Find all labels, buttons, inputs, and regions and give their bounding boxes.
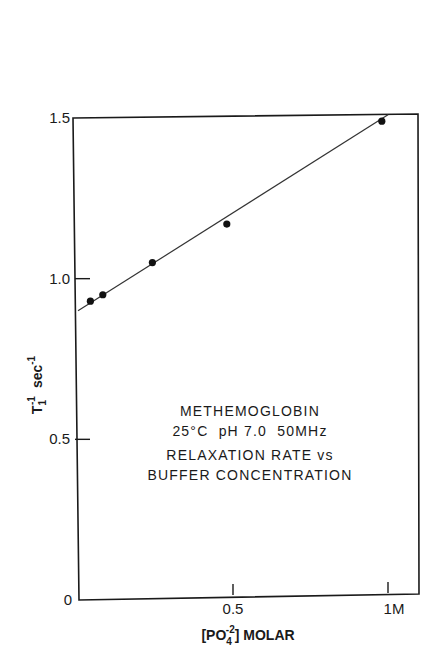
annotation-line: 25°C pH 7.0 50MHz [172,423,327,439]
y-axis-label: T1-1sec-1 [26,355,48,414]
annotation-line: METHEMOGLOBIN [180,403,320,419]
y-tick-label: 0.5 [49,430,70,447]
annotation: METHEMOGLOBIN 25°C pH 7.0 50MHz RELAXATI… [148,403,353,483]
data-point [87,298,94,305]
data-point [149,259,156,266]
chart: 00.51.01.50.51M [PO4-2] MOLAR T1-1sec-1 … [0,0,440,665]
y-tick-label: 1.5 [49,109,70,126]
data-point [99,291,106,298]
plot-border [73,114,419,600]
x-tick-label: 0.5 [223,600,244,617]
annotation-line: RELAXATION RATE vs [166,447,333,463]
y-tick-label: 0 [64,591,72,608]
x-axis-label: [PO4-2] MOLAR [201,624,294,647]
plot-frame [73,114,419,600]
data-point [223,220,230,227]
data-point [378,118,385,125]
y-tick-label: 1.0 [49,270,70,287]
fit-line [78,115,388,311]
annotation-line: BUFFER CONCENTRATION [148,467,353,483]
fit-line-group [78,115,388,311]
x-tick-label: 1M [384,600,405,617]
ticks: 00.51.01.50.51M [49,109,404,617]
